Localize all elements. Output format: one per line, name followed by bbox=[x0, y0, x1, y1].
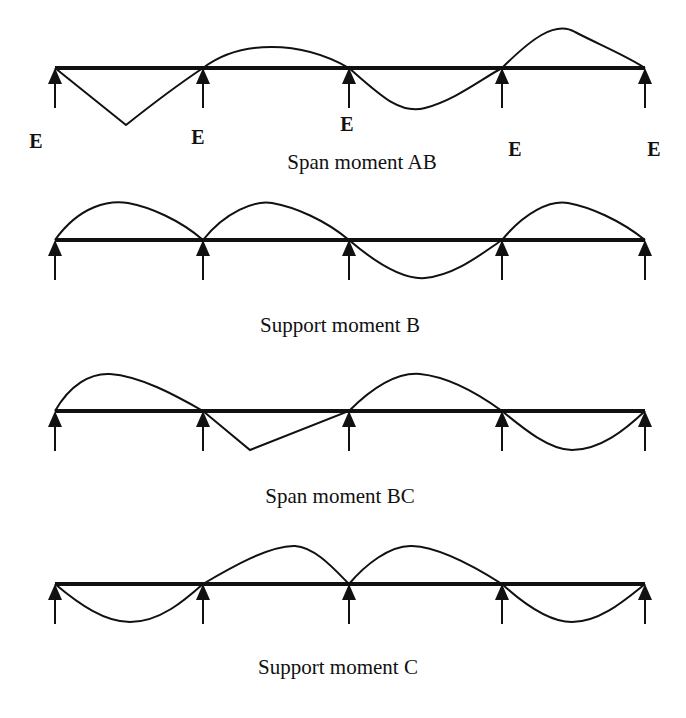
support-label: E bbox=[191, 126, 204, 149]
support-arrow-icon bbox=[48, 68, 62, 108]
support-arrow-icon bbox=[495, 240, 509, 280]
support-arrow-icon bbox=[342, 411, 356, 451]
support-label: E bbox=[29, 130, 42, 153]
caption-span-moment-ab: Span moment AB bbox=[287, 150, 436, 175]
support-label: E bbox=[647, 138, 660, 161]
support-arrow-icon bbox=[342, 240, 356, 280]
support-arrow-icon bbox=[48, 240, 62, 280]
support-label: E bbox=[340, 113, 353, 136]
support-arrow-icon bbox=[48, 584, 62, 624]
support-arrow-icon bbox=[196, 411, 210, 451]
support-arrow-icon bbox=[638, 584, 652, 624]
diagram-span-moment-bc bbox=[48, 374, 652, 451]
caption-support-moment-b: Support moment B bbox=[260, 313, 420, 338]
diagram-support-moment-b bbox=[48, 202, 652, 280]
support-arrow-icon bbox=[495, 584, 509, 624]
support-arrow-icon bbox=[342, 584, 356, 624]
support-arrow-icon bbox=[196, 240, 210, 280]
support-arrow-icon bbox=[196, 584, 210, 624]
support-arrow-icon bbox=[638, 68, 652, 108]
influence-lines-diagram bbox=[0, 0, 686, 718]
diagram-span-moment-ab bbox=[48, 28, 652, 125]
support-arrow-icon bbox=[495, 68, 509, 108]
support-label: E bbox=[508, 138, 521, 161]
support-arrow-icon bbox=[342, 68, 356, 108]
diagram-support-moment-c bbox=[48, 546, 652, 624]
support-arrow-icon bbox=[48, 411, 62, 451]
support-arrow-icon bbox=[196, 68, 210, 108]
caption-span-moment-bc: Span moment BC bbox=[265, 484, 414, 509]
support-arrow-icon bbox=[638, 411, 652, 451]
support-arrow-icon bbox=[495, 411, 509, 451]
support-arrow-icon bbox=[638, 240, 652, 280]
caption-support-moment-c: Support moment C bbox=[258, 655, 418, 680]
